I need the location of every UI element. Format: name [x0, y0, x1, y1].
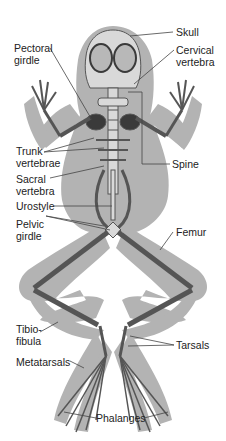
skeleton [32, 30, 194, 432]
label-phalanges: Phalanges [96, 412, 146, 424]
urostyle-bone [111, 170, 115, 220]
label-femur: Femur [176, 226, 206, 238]
left-eye-socket [90, 44, 112, 72]
label-cervical-vertebra: Cervical vertebra [176, 44, 215, 68]
label-metatarsals: Metatarsals [16, 356, 70, 368]
label-tarsals: Tarsals [176, 339, 209, 351]
label-spine: Spine [172, 158, 199, 170]
frog-skeleton-diagram: Skull Pectoral girdle Cervical vertebra … [0, 0, 226, 441]
label-trunk-vertebrae: Trunk vertebrae [16, 145, 60, 169]
label-sacral-vertebra: Sacral vertebra [16, 173, 55, 197]
label-urostyle: Urostyle [16, 200, 55, 212]
label-tibio-fibula: Tibio- fibula [16, 323, 42, 347]
label-pelvic-girdle: Pelvic girdle [16, 218, 44, 242]
label-skull: Skull [176, 26, 199, 38]
right-eye-socket [114, 44, 136, 72]
label-pectoral-girdle: Pectoral girdle [14, 42, 53, 66]
